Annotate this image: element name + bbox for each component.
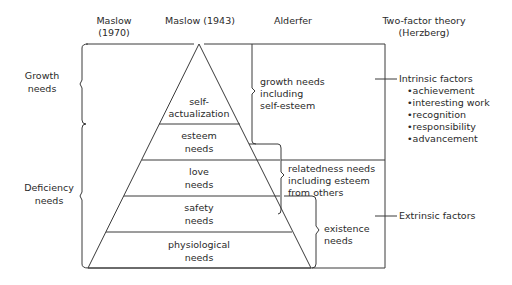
alderfer-relatedness-label-1: relatedness needs [288,163,375,174]
alderfer-relatedness-label-2: including esteem [288,175,370,186]
header-maslow-1943: Maslow (1943) [165,15,235,26]
level-safety-2: needs [185,215,214,226]
alderfer-growth-label-2: including [260,88,303,99]
alderfer-growth-label-1: growth needs [260,76,325,87]
intrinsic-item-responsibility: •responsibility [407,121,476,132]
growth-needs-label-1: Growth [25,70,59,81]
level-physiological-2: needs [185,252,214,263]
alderfer-growth-bracket [252,44,256,144]
growth-needs-label-2: needs [28,83,57,94]
deficiency-bracket [80,124,88,268]
level-self-actualization-2: actualization [169,108,230,119]
alderfer-existence-label-1: existence [324,223,370,234]
level-safety-1: safety [184,202,214,213]
header-maslow-1970-line1: Maslow [96,15,131,26]
header-herzberg-line1: Two-factor theory [381,15,466,26]
level-self-actualization-1: self- [189,96,209,107]
level-love-1: love [189,166,209,177]
deficiency-needs-label-1: Deficiency [24,182,74,193]
growth-bracket [80,44,88,124]
header-maslow-1970-line2: (1970) [98,27,130,38]
intrinsic-factors-title: Intrinsic factors [399,73,473,84]
alderfer-relatedness-label-3: from others [288,187,343,198]
header-alderfer: Alderfer [274,15,312,26]
alderfer-existence-label-2: needs [324,235,353,246]
intrinsic-item-advancement: •advancement [407,133,478,144]
alderfer-growth-label-3: self-esteem [260,100,315,111]
deficiency-needs-label-2: needs [35,195,64,206]
intrinsic-item-interesting-work: •interesting work [407,97,490,108]
level-esteem-1: esteem [181,130,216,141]
intrinsic-item-achievement: •achievement [407,85,475,96]
header-herzberg-line2: (Herzberg) [399,27,450,38]
level-esteem-2: needs [185,143,214,154]
level-love-2: needs [185,179,214,190]
intrinsic-item-recognition: •recognition [407,109,466,120]
extrinsic-factors-title: Extrinsic factors [399,210,476,221]
needs-theories-diagram: Maslow (1970) Maslow (1943) Alderfer Two… [0,0,512,285]
level-physiological-1: physiological [168,239,230,250]
